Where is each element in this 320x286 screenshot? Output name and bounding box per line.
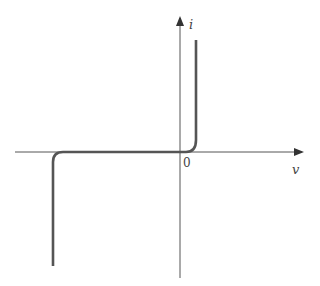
iv-characteristic-diagram: i 0 v xyxy=(0,0,320,286)
iv-curve xyxy=(53,40,196,266)
origin-label: 0 xyxy=(183,156,191,170)
y-axis-label: i xyxy=(189,17,193,32)
x-axis-label: v xyxy=(292,162,300,177)
